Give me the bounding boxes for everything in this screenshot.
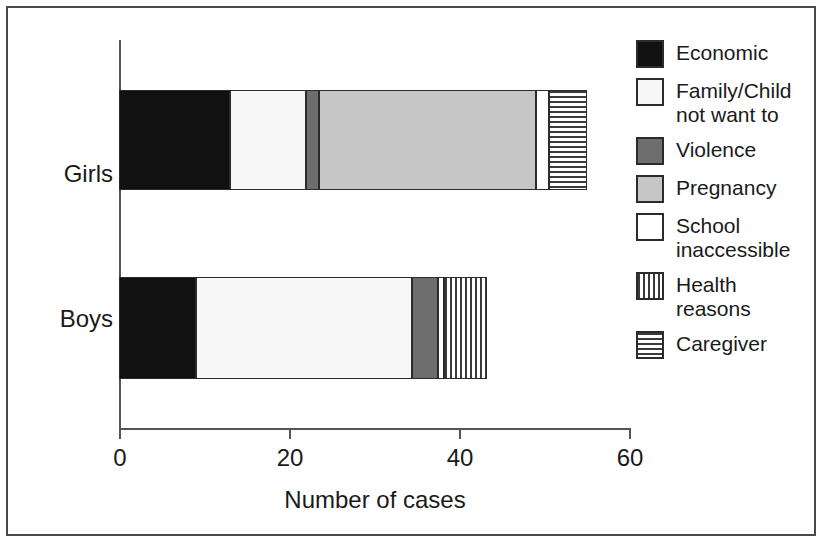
segment-boys-economic (119, 277, 196, 379)
legend-label-caregiver: Caregiver (676, 331, 767, 356)
segment-boys-family (196, 277, 412, 379)
segment-girls-violence (306, 90, 319, 190)
legend-swatch-caregiver-icon (636, 331, 664, 359)
legend-label-health: Health reasons (676, 272, 816, 321)
segment-boys-violence (412, 277, 438, 379)
legend-item-economic: Economic (636, 40, 816, 68)
legend-label-pregnancy: Pregnancy (676, 175, 776, 200)
x-tick-0 (119, 428, 121, 439)
legend-swatch-violence-icon (636, 137, 664, 165)
legend-label-school: School inaccessible (676, 213, 790, 262)
x-tick-label-20: 20 (255, 444, 325, 472)
segment-girls-family (230, 90, 306, 190)
legend-label-economic: Economic (676, 40, 768, 65)
segment-girls-caregiver (549, 90, 587, 190)
legend-item-family: Family/Child not want to (636, 78, 816, 127)
category-label-boys: Boys (10, 305, 113, 333)
x-tick-label-60: 60 (595, 444, 665, 472)
legend-item-caregiver: Caregiver (636, 331, 816, 359)
segment-boys-health (444, 277, 487, 379)
x-tick-60 (629, 428, 631, 439)
legend-item-school: School inaccessible (636, 213, 816, 262)
x-axis-line (119, 428, 629, 430)
legend-item-violence: Violence (636, 137, 816, 165)
x-tick-label-40: 40 (425, 444, 495, 472)
segment-girls-economic (119, 90, 230, 190)
legend-label-violence: Violence (676, 137, 756, 162)
x-axis-title: Number of cases (150, 486, 600, 514)
x-tick-label-0: 0 (85, 444, 155, 472)
segment-girls-pregnancy (319, 90, 536, 190)
legend-swatch-economic-icon (636, 40, 664, 68)
chart-figure: 0 20 40 60 Number of cases Girls Boys (0, 0, 822, 542)
category-label-girls: Girls (10, 160, 113, 188)
legend-label-family: Family/Child not want to (676, 78, 792, 127)
legend-swatch-school-icon (636, 213, 664, 241)
segment-girls-school (536, 90, 549, 190)
legend-swatch-pregnancy-icon (636, 175, 664, 203)
legend-item-health: Health reasons (636, 272, 816, 321)
legend-item-pregnancy: Pregnancy (636, 175, 816, 203)
x-tick-20 (289, 428, 291, 439)
legend-swatch-family-icon (636, 78, 664, 106)
legend-swatch-health-icon (636, 272, 664, 300)
legend: Economic Family/Child not want to Violen… (636, 40, 816, 369)
x-tick-40 (459, 428, 461, 439)
